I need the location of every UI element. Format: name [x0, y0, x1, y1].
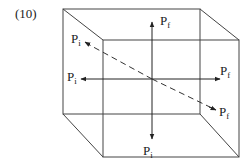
cube-momentum-diagram: (10) Pf Pi Pi Pf	[0, 0, 252, 168]
label-horizontal-left: Pi	[67, 69, 77, 86]
diagonal-dashed-arrow: Pi Pf	[71, 31, 229, 121]
cube-edge-top-left	[63, 9, 103, 40]
dashed-arrow-back-icon	[85, 42, 90, 45]
dashed-arrow-front-line	[152, 79, 214, 109]
figure-number: (10)	[15, 6, 37, 21]
label-diagonal-start: Pi	[71, 31, 81, 48]
horizontal-arrow: Pi Pf	[67, 63, 230, 86]
label-diagonal-end: Pf	[219, 104, 229, 121]
cube	[63, 9, 239, 157]
vertical-arrow: Pf Pi	[143, 13, 170, 160]
dashed-arrow-back-line	[86, 43, 152, 79]
cube-edge-bottom-right	[200, 114, 239, 157]
label-vertical-down: Pi	[143, 143, 153, 160]
label-vertical-up: Pf	[160, 13, 170, 30]
cube-front-face	[103, 40, 239, 157]
label-horizontal-right: Pf	[220, 63, 230, 80]
cube-edge-bottom-left	[63, 114, 103, 157]
cube-edge-top-right	[200, 9, 239, 40]
dashed-arrow-front-icon	[209, 107, 216, 110]
